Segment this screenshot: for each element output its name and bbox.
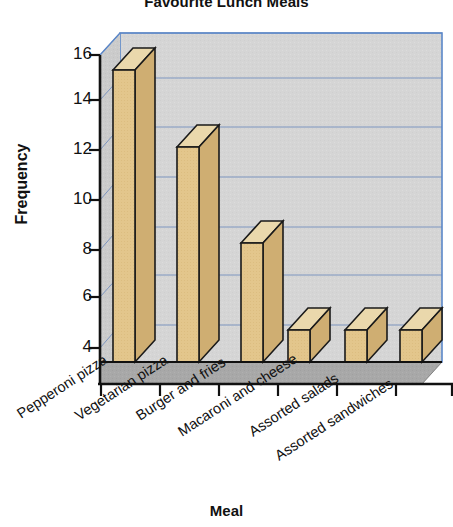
y-tick-label-4: 4	[52, 337, 92, 357]
y-tick-label-10: 10	[52, 189, 92, 209]
chart-container: Favourite Lunch Meals Frequency Meal	[0, 0, 453, 527]
bar-burger-and-fries[interactable]	[241, 221, 283, 362]
x-tick-marks	[101, 384, 452, 396]
y-tick-label-6: 6	[52, 286, 92, 306]
y-tick-label-8: 8	[52, 239, 92, 259]
y-tick-label-12: 12	[52, 139, 92, 159]
plot-area	[0, 0, 453, 527]
bar-vegetarian-pizza[interactable]	[177, 125, 219, 362]
y-tick-label-16: 16	[52, 44, 92, 64]
y-tick-label-14: 14	[52, 89, 92, 109]
bar-pepperoni-pizza[interactable]	[113, 48, 155, 362]
